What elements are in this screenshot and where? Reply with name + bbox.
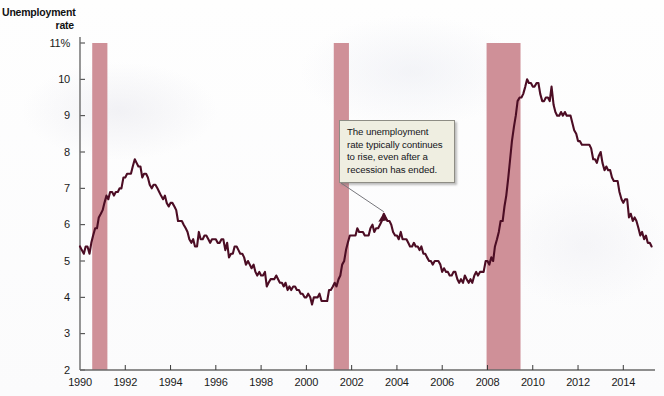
callout-line-1: The unemployment [347,126,448,139]
x-axis-label: 2010 [510,377,556,388]
x-axis-label: 1994 [148,377,194,388]
y-axis-label: 10 [26,74,70,85]
callout-line-2: rate typically continues [347,139,448,152]
callout-line-4: recession has ended. [347,164,448,177]
unemployment-rate-chart: Unemployment rate The unemployment rate … [0,0,664,396]
recession-band [334,43,349,370]
y-axis-label: 3 [26,328,70,339]
y-axis-label: 4 [26,292,70,303]
y-axis-label: 5 [26,256,70,267]
x-axis-label: 2008 [464,377,510,388]
x-axis-label: 2012 [555,377,601,388]
x-axis-label: 1992 [102,377,148,388]
y-axis-label: 6 [26,219,70,230]
y-axis-label: 7 [26,183,70,194]
x-axis-label: 2014 [600,377,646,388]
x-axis-label: 2000 [283,377,329,388]
x-axis-label: 1996 [193,377,239,388]
x-axis-label: 2006 [419,377,465,388]
y-axis-label: 9 [26,110,70,121]
x-axis-label: 1998 [238,377,284,388]
y-axis-label: 11% [26,38,70,49]
y-axis-label: 2 [26,365,70,376]
annotation-callout: The unemployment rate typically continue… [339,120,455,183]
plot-area [0,0,664,396]
unemployment-rate-line [80,79,652,304]
x-axis-label: 1990 [57,377,103,388]
x-axis-label: 2004 [374,377,420,388]
callout-line-3: to rise, even after a [347,151,448,164]
recession-band [92,43,107,370]
x-axis-label: 2002 [329,377,375,388]
y-axis-label: 8 [26,147,70,158]
